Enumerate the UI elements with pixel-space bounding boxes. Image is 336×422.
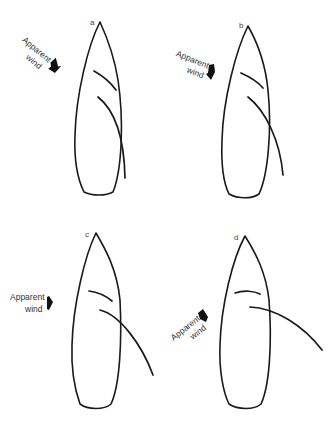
mainsail-d xyxy=(250,307,322,350)
mainsail-c xyxy=(100,310,153,375)
hull-d xyxy=(220,236,270,409)
hull-c xyxy=(72,233,121,409)
mainsail-b xyxy=(248,97,283,175)
panel-label-c: c xyxy=(85,230,89,239)
panel-a: a Apparent wind xyxy=(13,18,125,195)
panel-label-b: b xyxy=(239,21,244,30)
jib-a xyxy=(94,71,116,90)
panel-label-d: d xyxy=(234,233,238,242)
panel-c: c Apparent wind xyxy=(10,230,153,409)
jib-b xyxy=(241,73,263,88)
wind-arrow-icon-c xyxy=(47,296,53,310)
wind-label-a: Apparent wind xyxy=(13,35,53,74)
jib-c xyxy=(89,291,112,301)
hull-a xyxy=(75,22,122,195)
panel-d: d Apparent wind xyxy=(169,233,322,409)
panel-b: b Apparent wind xyxy=(171,21,283,198)
wind-label-c: Apparent wind xyxy=(10,292,45,314)
wind-label-b: Apparent wind xyxy=(171,48,211,81)
jib-d xyxy=(235,291,260,294)
svg-text:Apparent: Apparent xyxy=(10,292,45,302)
svg-text:wind: wind xyxy=(24,304,43,314)
panel-label-a: a xyxy=(90,18,95,27)
sail-trim-diagram: a Apparent wind b Apparent wind c Appare… xyxy=(0,0,336,422)
